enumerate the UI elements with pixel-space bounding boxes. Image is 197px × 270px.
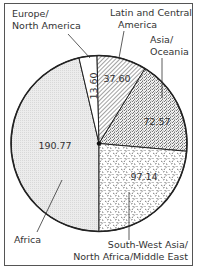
label-south-west-asia-north-africa-middle-east: North Africa/Middle East (73, 251, 188, 262)
label-asia-oceania: Asia/ (150, 34, 174, 45)
pie-chart: Europe/North America13.60Latin and Centr… (0, 0, 197, 270)
value-south-west-asia-north-africa-middle-east: 97.14 (130, 171, 157, 182)
label-europe-north-america: Europe/ (12, 8, 49, 19)
value-africa: 190.77 (38, 140, 71, 151)
label-latin-central-america: America (118, 19, 157, 30)
label-asia-oceania: Oceania (150, 46, 189, 57)
label-south-west-asia-north-africa-middle-east: South-West Asia/ (108, 239, 189, 250)
pie-slice-south-west-asia-north-africa-middle-east (99, 144, 187, 232)
label-africa: Africa (14, 234, 41, 245)
label-europe-north-america: North America (12, 20, 81, 31)
callout-line (68, 34, 90, 58)
value-europe-north-america: 13.60 (88, 72, 99, 99)
callout-line (119, 31, 124, 58)
value-latin-central-america: 37.60 (103, 73, 130, 84)
value-asia-oceania: 72.57 (143, 116, 170, 127)
label-latin-central-america: Latin and Central (110, 7, 192, 18)
